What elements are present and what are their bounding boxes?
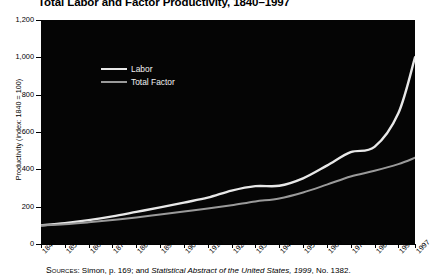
legend-label-labor: Labor (131, 64, 152, 74)
plot-lines (41, 20, 415, 244)
y-tick-label: 1,200 (0, 16, 34, 24)
y-tick-mark (36, 132, 41, 133)
y-tick-mark (36, 20, 41, 21)
y-tick-label: 0 (0, 240, 34, 248)
series-line-labor (41, 57, 415, 225)
y-tick-mark (36, 57, 41, 58)
source-text-before: : Simon, p. 169; and (77, 266, 151, 275)
chart-figure: Total Labor and Factor Productivity, 184… (0, 0, 430, 280)
y-tick-label: 200 (0, 203, 34, 211)
chart-title: Total Labor and Factor Productivity, 184… (38, 0, 418, 9)
y-tick-mark (36, 244, 41, 245)
legend-swatch-labor (101, 68, 127, 70)
y-axis-labels: 02004006008001,0001,200 (0, 0, 41, 280)
source-note: Sources: Simon, p. 169; and Statistical … (46, 265, 430, 276)
chart-legend: Labor Total Factor (101, 62, 175, 88)
source-italic-title: Statistical Abstract of the United State… (151, 266, 311, 275)
legend-item-total-factor: Total Factor (101, 75, 175, 88)
y-tick-label: 1,000 (0, 53, 34, 61)
x-tick-label: 1997 (414, 238, 430, 256)
source-prefix: Sources (46, 265, 77, 275)
legend-item-labor: Labor (101, 62, 175, 75)
y-tick-label: 600 (0, 128, 34, 136)
y-tick-label: 800 (0, 91, 34, 99)
y-tick-label: 400 (0, 165, 34, 173)
legend-label-total-factor: Total Factor (131, 77, 175, 87)
y-tick-mark (36, 169, 41, 170)
y-tick-mark (36, 207, 41, 208)
y-tick-mark (36, 95, 41, 96)
legend-swatch-total-factor (101, 81, 127, 83)
source-text-after: , No. 1382. (311, 266, 350, 275)
plot-area: Labor Total Factor (41, 20, 415, 244)
